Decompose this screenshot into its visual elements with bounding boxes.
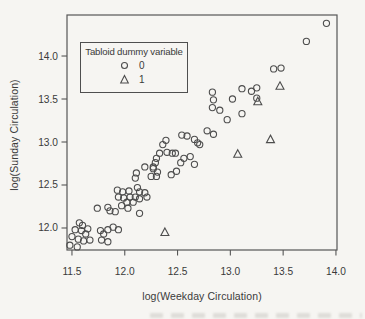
data-point-circle — [168, 172, 174, 178]
x-tick-label: 14.0 — [326, 266, 346, 277]
data-point-circle — [217, 107, 223, 113]
data-point-circle — [181, 155, 187, 161]
data-point-circle — [323, 20, 329, 26]
x-tick-label: 11.5 — [62, 266, 81, 277]
legend-item-label: 1 — [139, 74, 149, 85]
data-point-circle — [98, 237, 104, 243]
data-point-circle — [210, 97, 216, 103]
data-point-circle — [72, 227, 78, 233]
data-point-circle — [83, 231, 89, 237]
data-point-circle — [210, 131, 216, 137]
legend-item-label: 0 — [139, 60, 149, 71]
data-point-circle — [69, 233, 75, 239]
data-point-circle — [142, 164, 148, 170]
data-point-circle — [209, 89, 215, 95]
data-point-circle — [248, 88, 254, 94]
data-point-circle — [224, 117, 230, 123]
y-tick-label: 13.0 — [38, 137, 58, 148]
triangle-marker-icon — [119, 74, 130, 85]
data-point-circle — [278, 65, 284, 71]
y-tick-label: 14.0 — [38, 51, 58, 62]
data-point-circle — [239, 111, 245, 117]
data-point-circle — [160, 141, 166, 147]
y-tick-label: 12.0 — [38, 222, 58, 233]
x-tick-label: 12.5 — [168, 266, 188, 277]
circle-marker-icon — [119, 60, 130, 71]
data-point-circle — [163, 137, 169, 143]
data-point-circle — [115, 227, 121, 233]
y-tick-label: 12.5 — [38, 179, 58, 190]
data-point-circle — [118, 203, 124, 209]
data-point-circle — [187, 154, 193, 160]
data-point-circle — [126, 188, 132, 194]
x-tick-label: 13.0 — [220, 266, 240, 277]
data-point-circle — [271, 66, 277, 72]
page-scan-artifact — [150, 313, 362, 318]
scatter-plot-figure: 11.512.012.513.013.514.012.012.513.013.5… — [0, 0, 365, 319]
data-point-circle — [303, 38, 309, 44]
data-point-triangle — [266, 135, 274, 143]
data-point-circle — [154, 169, 160, 175]
data-point-circle — [136, 210, 142, 216]
data-point-circle — [191, 161, 197, 167]
data-point-circle — [178, 160, 184, 166]
data-point-circle — [87, 237, 93, 243]
x-tick-label: 12.0 — [115, 266, 135, 277]
y-axis-title: log(Sunday Circulation) — [8, 79, 20, 190]
data-point-triangle — [161, 228, 169, 236]
data-point-triangle — [276, 82, 284, 90]
data-point-circle — [67, 242, 73, 248]
y-tick-label: 13.5 — [38, 94, 58, 105]
data-point-circle — [209, 105, 215, 111]
legend: Tabloid dummy variable 0 1 — [80, 42, 188, 93]
data-point-circle — [94, 205, 100, 211]
data-point-circle — [105, 239, 111, 245]
data-point-circle — [204, 128, 210, 134]
data-point-circle — [153, 155, 159, 161]
data-point-circle — [239, 86, 245, 92]
legend-title: Tabloid dummy variable — [81, 46, 187, 57]
data-point-circle — [130, 199, 136, 205]
data-point-circle — [229, 96, 235, 102]
x-axis-title: log(Weekday Circulation) — [67, 290, 337, 302]
x-tick-label: 13.5 — [273, 266, 293, 277]
legend-item-broadsheet: 0 — [81, 59, 187, 71]
legend-item-tabloid: 1 — [81, 73, 187, 85]
data-point-circle — [74, 244, 80, 250]
data-point-triangle — [234, 150, 242, 158]
data-point-circle — [125, 205, 131, 211]
